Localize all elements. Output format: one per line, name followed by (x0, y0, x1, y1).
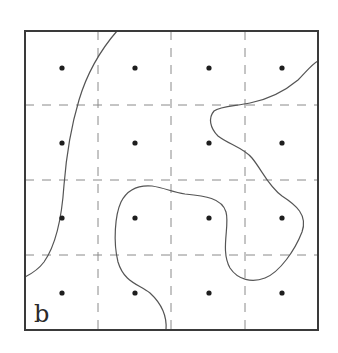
sample-dot (279, 65, 284, 70)
sample-dot (206, 65, 211, 70)
sample-dot (206, 215, 211, 220)
sample-dot (279, 290, 284, 295)
sample-dot (59, 290, 64, 295)
background (0, 0, 338, 353)
sample-dot (59, 140, 64, 145)
sample-dot (59, 215, 64, 220)
sample-dot (206, 290, 211, 295)
panel-label: b (34, 300, 49, 328)
diagram-figure: b (0, 0, 338, 353)
sample-dot (279, 140, 284, 145)
sample-dot (59, 65, 64, 70)
sample-dot (206, 140, 211, 145)
sample-dot (132, 290, 137, 295)
sample-dot (132, 140, 137, 145)
sample-dot (132, 65, 137, 70)
sample-dot (132, 215, 137, 220)
sample-dot (279, 215, 284, 220)
